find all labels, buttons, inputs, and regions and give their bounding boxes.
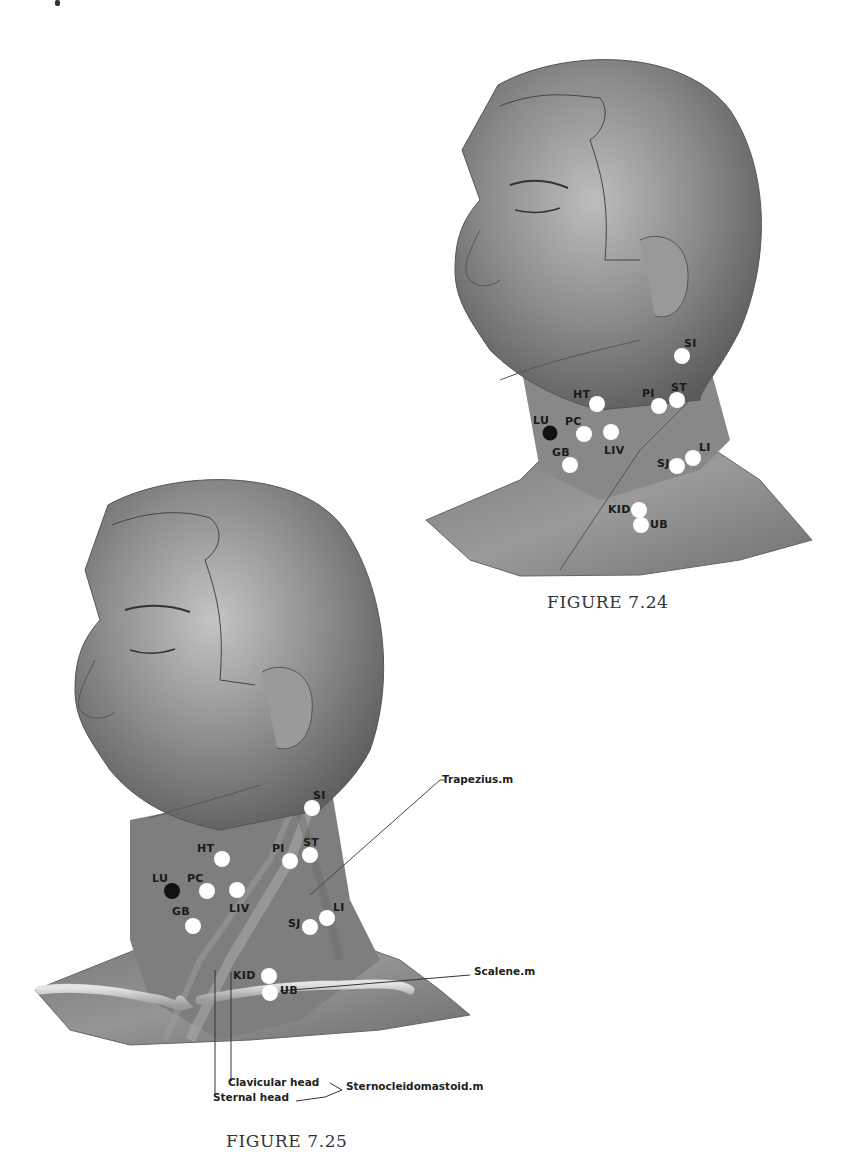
label-ub: UB [280, 985, 298, 997]
point-ht [214, 851, 230, 867]
point-si [304, 800, 320, 816]
label-si: SI [313, 790, 326, 802]
point-gb [185, 918, 201, 934]
point-ub [262, 985, 278, 1001]
label-pc: PC [187, 873, 204, 885]
label-liv: LIV [229, 903, 250, 915]
label-pi: PI [272, 843, 285, 855]
head-neck-muscle-illustration-7-25 [0, 0, 852, 1173]
label-ht: HT [197, 843, 214, 855]
label-li: LI [333, 902, 345, 914]
label-kid: KID [233, 970, 256, 982]
point-st [302, 847, 318, 863]
callout-sternocleidomastoid: Sternocleidomastoid.m [346, 1080, 483, 1092]
label-sj: SJ [288, 918, 301, 930]
label-lu: LU [152, 873, 168, 885]
callout-trapezius: Trapezius.m [442, 773, 513, 785]
point-lu [164, 883, 180, 899]
point-kid [261, 968, 277, 984]
label-st: ST [303, 837, 319, 849]
callout-scalene: Scalene.m [474, 965, 535, 977]
callout-sternal-head: Sternal head [213, 1091, 289, 1103]
point-pc [199, 883, 215, 899]
point-liv [229, 882, 245, 898]
callout-clavicular-head: Clavicular head [228, 1076, 319, 1088]
figure-7-25: SI HT PI ST LU PC LIV GB SJ LI KID UB Tr… [0, 0, 852, 1173]
label-gb: GB [172, 906, 190, 918]
point-pi [282, 853, 298, 869]
point-sj [302, 919, 318, 935]
figure-caption-7-25: FIGURE 7.25 [226, 1131, 347, 1151]
